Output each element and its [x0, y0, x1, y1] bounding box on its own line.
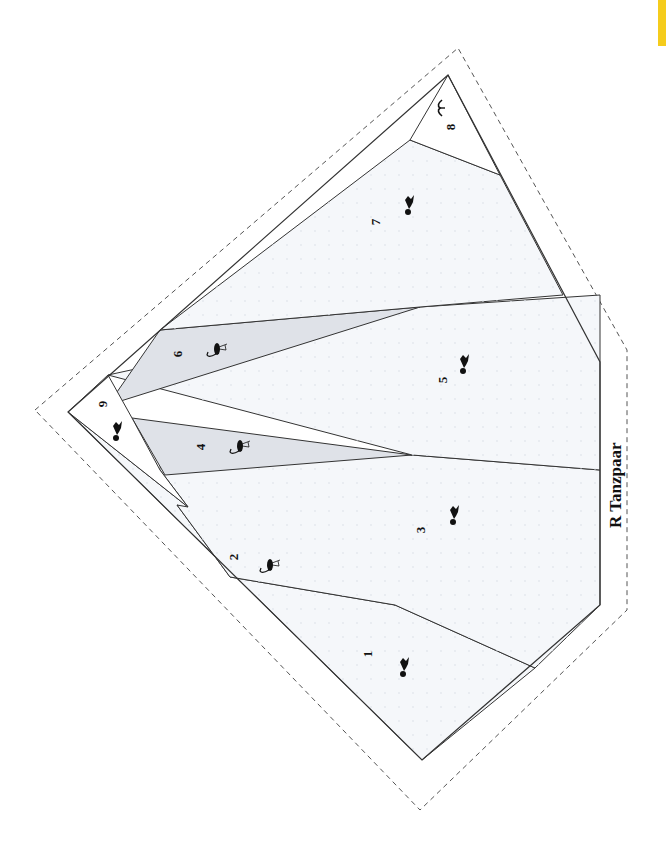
section-number-1: 1: [360, 651, 375, 658]
pattern-title: R Tanzpaar: [606, 443, 626, 529]
section-number-9: 9: [95, 400, 110, 407]
pattern-sections: [68, 75, 600, 760]
section-number-3: 3: [413, 526, 428, 533]
paper-piecing-pattern: 123456789: [0, 0, 666, 850]
section-number-2: 2: [226, 554, 241, 561]
section-number-8: 8: [443, 123, 458, 130]
section-number-7: 7: [368, 218, 383, 225]
section-number-5: 5: [435, 376, 450, 383]
section-number-6: 6: [170, 350, 185, 357]
section-number-4: 4: [193, 443, 208, 450]
